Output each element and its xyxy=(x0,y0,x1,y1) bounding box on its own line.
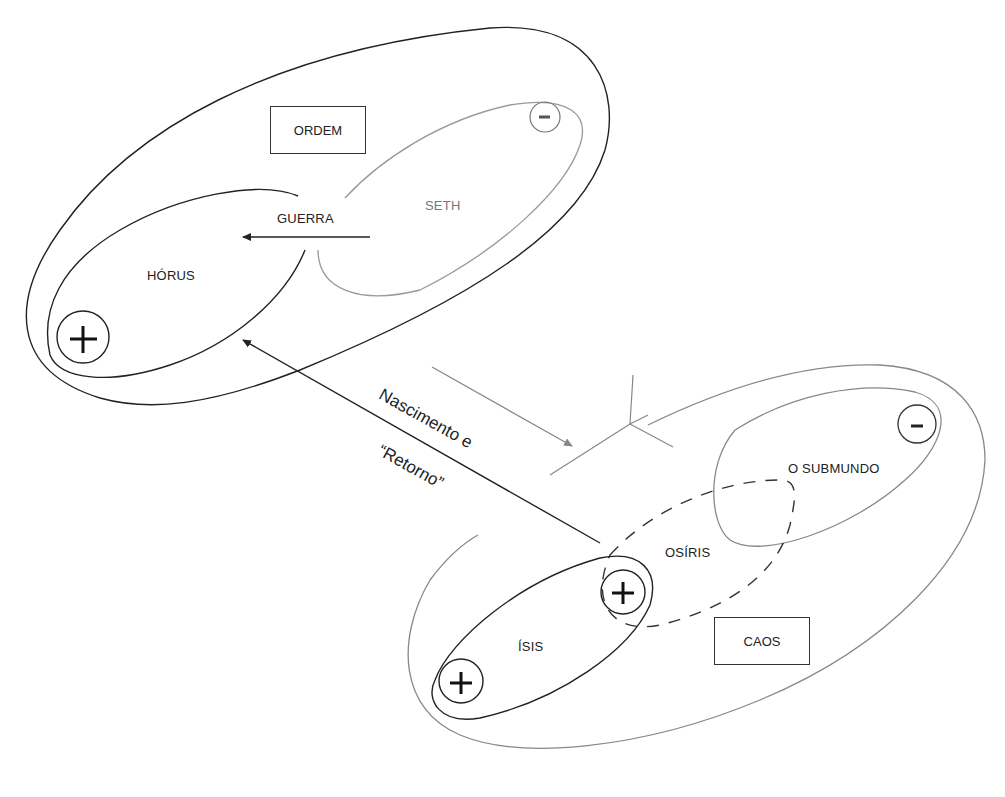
horus-label: HÓRUS xyxy=(147,268,195,283)
birth-return-arrow xyxy=(243,340,600,543)
underworld-label: O SUBMUNDO xyxy=(788,461,880,476)
osiris-label: OSÍRIS xyxy=(665,545,710,560)
isis-label: ÍSIS xyxy=(518,639,543,654)
horus-ellipse xyxy=(48,190,305,378)
order-label-box: ORDEM xyxy=(270,106,366,154)
isis-ellipse xyxy=(432,556,653,719)
seth-label: SETH xyxy=(425,198,460,213)
underworld-minus-circle xyxy=(898,405,936,443)
chaos-label-box: CAOS xyxy=(714,617,810,665)
myth-diagram xyxy=(0,0,1005,797)
war-label: GUERRA xyxy=(277,211,334,226)
